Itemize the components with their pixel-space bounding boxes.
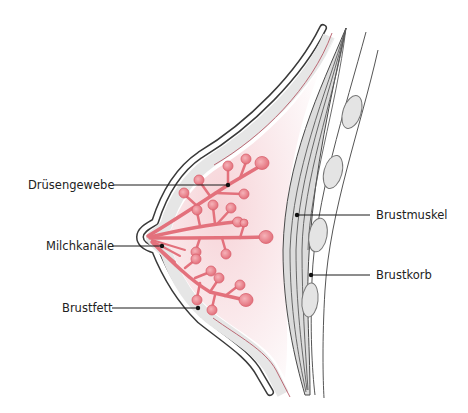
label-milchkanaele: Milchkanäle [46,239,114,253]
label-brustkorb: Brustkorb [376,268,432,282]
label-brustmuskel: Brustmuskel [376,208,447,222]
breast-anatomy-diagram [0,0,468,413]
label-druesengewebe: Drüsengewebe [28,178,114,192]
label-brustfett: Brustfett [62,301,113,315]
